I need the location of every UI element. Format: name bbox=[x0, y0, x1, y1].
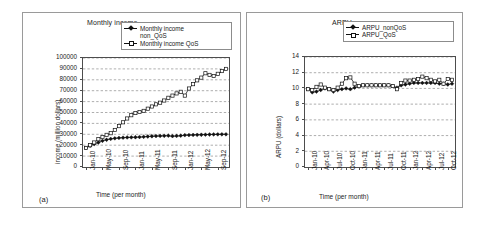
x-tick-mark bbox=[152, 167, 153, 170]
y-tick-label: 0 bbox=[43, 162, 77, 169]
x-tick-label: Sep-12 bbox=[220, 150, 227, 170]
x-tick-mark bbox=[435, 167, 436, 170]
y-tick-mark bbox=[302, 166, 305, 167]
x-tick-label: Jul-10 bbox=[336, 153, 343, 170]
y-tick-mark bbox=[80, 101, 83, 102]
x-tick-mark bbox=[102, 167, 103, 170]
x-tick-label: Jan-11 bbox=[138, 151, 145, 170]
x-tick-label: Jan-11 bbox=[361, 151, 368, 170]
x-tick-mark bbox=[321, 167, 322, 170]
y-tick-label: 6 bbox=[285, 115, 299, 122]
x-tick-label: Sep-11 bbox=[171, 150, 178, 170]
y-tick-label: 70000 bbox=[43, 86, 77, 93]
x-tick-label: May-10 bbox=[105, 149, 112, 170]
x-tick-label: Apr-11 bbox=[374, 152, 381, 170]
legend-marker-diamond-icon bbox=[346, 24, 359, 31]
y-tick-label: 14 bbox=[285, 52, 299, 59]
x-tick-mark bbox=[218, 167, 219, 170]
y-tick-mark bbox=[302, 87, 305, 88]
x-tick-mark bbox=[372, 167, 373, 170]
y-tick-mark bbox=[302, 135, 305, 136]
x-tick-label: Apr-12 bbox=[425, 151, 432, 170]
y-tick-label: 60000 bbox=[43, 97, 77, 104]
y-tick-mark bbox=[302, 119, 305, 120]
x-axis-label-b: Time (per month) bbox=[319, 193, 369, 200]
x-tick-mark bbox=[384, 167, 385, 170]
x-tick-label: Oct-12 bbox=[450, 151, 457, 170]
x-tick-mark bbox=[410, 167, 411, 170]
figure-container: Monthly income Monthly income non_QoS Mo… bbox=[0, 0, 485, 228]
x-tick-label: Apr-10 bbox=[323, 151, 330, 170]
x-tick-label: Jan-12 bbox=[412, 151, 419, 170]
x-tick-mark bbox=[119, 167, 120, 170]
x-tick-label: Oct-11 bbox=[400, 152, 407, 170]
y-tick-mark bbox=[80, 144, 83, 145]
legend-item-qos[interactable]: Monthly income QoS bbox=[124, 40, 228, 47]
legend-label-non-qos-cont: non_QoS bbox=[124, 32, 228, 39]
legend-a: Monthly income non_QoS Monthly income Qo… bbox=[121, 22, 232, 50]
y-tick-mark bbox=[80, 133, 83, 134]
legend-label-arpu-nonqos: ARPU_nonQoS bbox=[362, 24, 406, 31]
x-tick-mark bbox=[448, 167, 449, 170]
x-tick-mark bbox=[168, 167, 169, 170]
y-tick-label: 20000 bbox=[43, 141, 77, 148]
x-axis-label-a: Time (per month) bbox=[96, 191, 146, 198]
legend-marker-diamond-icon bbox=[124, 25, 137, 32]
x-tick-mark bbox=[422, 167, 423, 170]
y-tick-mark bbox=[80, 57, 83, 58]
y-tick-label: 80000 bbox=[43, 75, 77, 82]
y-tick-label: 90000 bbox=[43, 64, 77, 71]
y-tick-mark bbox=[302, 150, 305, 151]
y-tick-label: 0 bbox=[285, 162, 299, 169]
x-tick-label: Jan-10 bbox=[89, 151, 96, 170]
legend-item-arpu-nonqos[interactable]: ARPU_nonQoS bbox=[346, 24, 450, 31]
x-tick-label: May-12 bbox=[204, 149, 211, 170]
y-tick-mark bbox=[80, 112, 83, 113]
chart-panel-a: Monthly income Monthly income non_QoS Mo… bbox=[22, 12, 241, 208]
y-tick-label: 40000 bbox=[43, 119, 77, 126]
y-axis-label-b: ARPU (dollars) bbox=[275, 116, 282, 158]
legend-marker-square-icon bbox=[346, 31, 359, 38]
legend-b: ARPU_nonQoS ARPU_QoS bbox=[343, 21, 454, 42]
x-tick-mark bbox=[86, 167, 87, 170]
y-tick-mark bbox=[302, 56, 305, 57]
x-tick-mark bbox=[333, 167, 334, 170]
x-tick-label: Jan-12 bbox=[187, 151, 194, 170]
legend-marker-square-icon bbox=[124, 40, 137, 47]
y-tick-label: 2 bbox=[285, 147, 299, 154]
panel-caption-a: (a) bbox=[39, 195, 48, 204]
x-tick-label: Sep-10 bbox=[122, 150, 129, 170]
x-tick-mark bbox=[346, 167, 347, 170]
y-tick-label: 8 bbox=[285, 100, 299, 107]
x-tick-mark bbox=[185, 167, 186, 170]
legend-label-arpu-qos: ARPU_QoS bbox=[362, 31, 396, 38]
y-tick-label: 100000 bbox=[43, 53, 77, 60]
y-tick-mark bbox=[302, 72, 305, 73]
x-tick-mark bbox=[308, 167, 309, 170]
y-tick-mark bbox=[80, 166, 83, 167]
x-tick-label: Jul-11 bbox=[387, 153, 394, 170]
panel-caption-b: (b) bbox=[261, 193, 270, 202]
legend-item-arpu-qos[interactable]: ARPU_QoS bbox=[346, 31, 450, 38]
x-tick-mark bbox=[359, 167, 360, 170]
y-tick-mark bbox=[80, 155, 83, 156]
y-tick-label: 30000 bbox=[43, 130, 77, 137]
chart-panel-b: ARPU ARPU_nonQoS ARPU_QoS ARPU (dollars)… bbox=[246, 12, 463, 208]
x-tick-label: Oct-10 bbox=[349, 151, 356, 170]
x-tick-label: May-11 bbox=[154, 149, 161, 170]
y-tick-label: 50000 bbox=[43, 108, 77, 115]
y-tick-label: 10000 bbox=[43, 152, 77, 159]
x-tick-label: Jan-10 bbox=[311, 151, 318, 170]
legend-item-non-qos[interactable]: Monthly income bbox=[124, 25, 228, 32]
x-tick-mark bbox=[201, 167, 202, 170]
y-tick-mark bbox=[302, 103, 305, 104]
y-tick-mark bbox=[80, 79, 83, 80]
y-tick-label: 10 bbox=[285, 84, 299, 91]
x-tick-label: Jul-12 bbox=[438, 153, 445, 170]
legend-label-non-qos: Monthly income bbox=[140, 25, 184, 32]
x-tick-mark bbox=[135, 167, 136, 170]
y-tick-mark bbox=[80, 68, 83, 69]
y-tick-label: 12 bbox=[285, 68, 299, 75]
y-tick-mark bbox=[80, 122, 83, 123]
y-tick-label: 4 bbox=[285, 131, 299, 138]
